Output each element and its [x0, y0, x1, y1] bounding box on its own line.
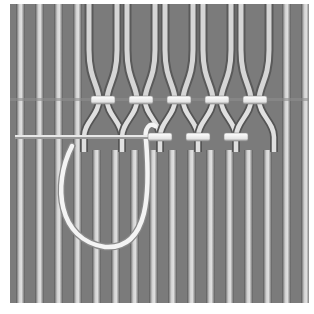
warp-thread — [168, 150, 177, 303]
stitch-wrap — [205, 96, 229, 104]
warp-thread — [54, 4, 63, 303]
warp-thread — [244, 150, 253, 303]
stitch-wrap — [224, 133, 248, 141]
warp-thread — [111, 150, 120, 303]
warp-thread — [92, 150, 101, 303]
warp-thread — [282, 4, 291, 303]
fabric — [10, 4, 310, 303]
warp-thread — [73, 4, 82, 303]
stitch-wrap — [148, 133, 172, 141]
warp-thread — [206, 150, 215, 303]
warp-thread — [301, 4, 310, 303]
warp-thread — [263, 150, 272, 303]
needle — [15, 136, 165, 137]
stitch-wrap — [167, 96, 191, 104]
warp-thread — [187, 150, 196, 303]
hemstitch-illustration — [0, 0, 314, 314]
stitch-wrap — [91, 96, 115, 104]
warp-thread — [16, 4, 25, 303]
stitch-wrap — [129, 96, 153, 104]
stitch-wrap — [243, 96, 267, 104]
warp-thread — [225, 150, 234, 303]
stitch-wrap — [186, 133, 210, 141]
embroidery-diagram — [0, 0, 314, 314]
warp-thread — [35, 4, 44, 303]
